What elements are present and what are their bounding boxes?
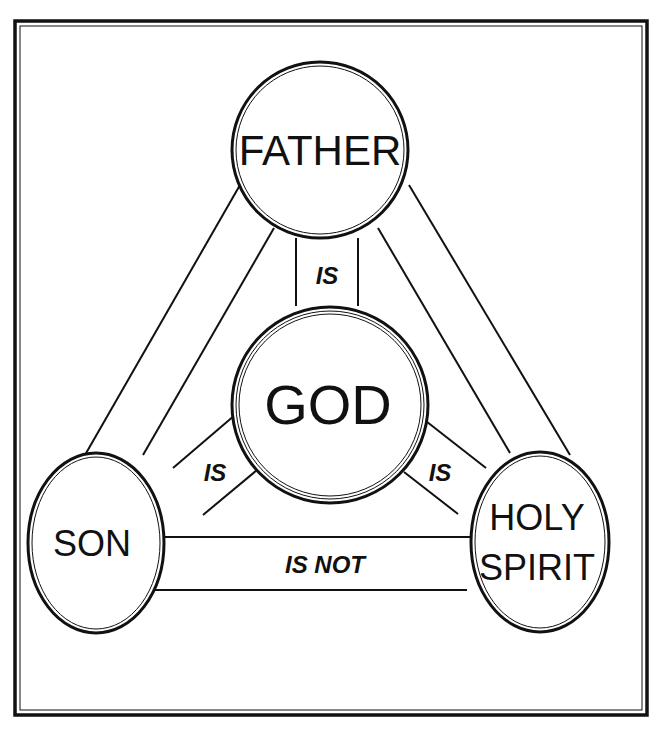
son-label: SON xyxy=(53,523,131,564)
edge-label-son-spirit: IS NOT xyxy=(285,551,367,578)
god-label: GOD xyxy=(264,373,392,436)
node-son: SON xyxy=(28,453,164,633)
node-father: FATHER xyxy=(232,62,408,238)
node-god: GOD xyxy=(232,307,428,503)
spirit-label: SPIRIT xyxy=(479,547,595,588)
father-label: FATHER xyxy=(239,127,402,174)
holy-label: HOLY xyxy=(489,497,584,538)
edge-label-spirit-god: IS xyxy=(429,459,452,486)
trinity-diagram: FATHER GOD SON HOLY SPIRIT IS IS IS IS N… xyxy=(0,0,663,734)
node-holy-spirit: HOLY SPIRIT xyxy=(471,452,609,632)
edge-label-son-god: IS xyxy=(204,459,227,486)
edge-label-father-god: IS xyxy=(316,262,339,289)
